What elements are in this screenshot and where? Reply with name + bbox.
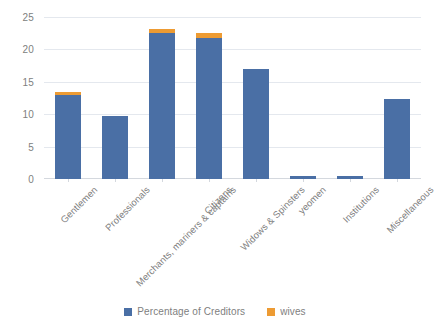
- x-label-slot: Professionals: [91, 180, 138, 290]
- y-tick-label: 0: [28, 174, 34, 185]
- y-tick-label: 5: [28, 141, 34, 152]
- plot-area: [44, 17, 421, 179]
- x-label-slot: Merchants, mariners & captains: [138, 180, 185, 290]
- x-label-slot: Widows & Spinsters: [233, 180, 280, 290]
- bar-group[interactable]: [44, 17, 91, 179]
- x-axis-tick-label: yeomen: [296, 184, 328, 216]
- x-label-slot: Miscellaneous: [374, 180, 421, 290]
- bar-group[interactable]: [185, 17, 232, 179]
- bar-segment-creditors[interactable]: [149, 33, 175, 179]
- x-label-slot: Citizens: [185, 180, 232, 290]
- y-tick-label: 25: [22, 12, 34, 23]
- y-tick-label: 20: [22, 44, 34, 55]
- bar-group[interactable]: [327, 17, 374, 179]
- bar-group[interactable]: [374, 17, 421, 179]
- bar-segment-creditors[interactable]: [55, 95, 81, 179]
- bar-segment-creditors[interactable]: [196, 38, 222, 179]
- legend-swatch-icon: [124, 308, 132, 316]
- x-axis-labels: GentlemenProfessionalsMerchants, mariner…: [44, 180, 421, 290]
- legend-item[interactable]: Percentage of Creditors: [124, 306, 245, 317]
- x-axis-tick-label: Miscellaneous: [385, 184, 436, 235]
- y-axis: 0510152025: [0, 0, 40, 179]
- bar-stack[interactable]: [55, 92, 81, 179]
- legend-item[interactable]: wives: [267, 306, 306, 317]
- bar-stack[interactable]: [243, 69, 269, 179]
- bar-group[interactable]: [91, 17, 138, 179]
- bar-stack[interactable]: [149, 29, 175, 179]
- legend-label: wives: [280, 306, 306, 317]
- bar-group[interactable]: [233, 17, 280, 179]
- x-label-slot: yeomen: [280, 180, 327, 290]
- x-label-slot: Institutions: [327, 180, 374, 290]
- bar-group[interactable]: [138, 17, 185, 179]
- bar-stack[interactable]: [196, 33, 222, 179]
- bar-segment-creditors[interactable]: [384, 99, 410, 179]
- bar-segment-creditors[interactable]: [102, 116, 128, 179]
- legend-label: Percentage of Creditors: [137, 306, 245, 317]
- y-tick-label: 15: [22, 76, 34, 87]
- bar-segment-creditors[interactable]: [243, 69, 269, 179]
- bar-group[interactable]: [280, 17, 327, 179]
- chart-legend: Percentage of Creditorswives: [0, 306, 430, 317]
- x-axis-tick-label: Citizens: [202, 184, 234, 216]
- x-label-slot: Gentlemen: [44, 180, 91, 290]
- bar-stack[interactable]: [384, 99, 410, 179]
- legend-swatch-icon: [267, 308, 275, 316]
- bar-stack[interactable]: [102, 116, 128, 179]
- y-tick-label: 10: [22, 109, 34, 120]
